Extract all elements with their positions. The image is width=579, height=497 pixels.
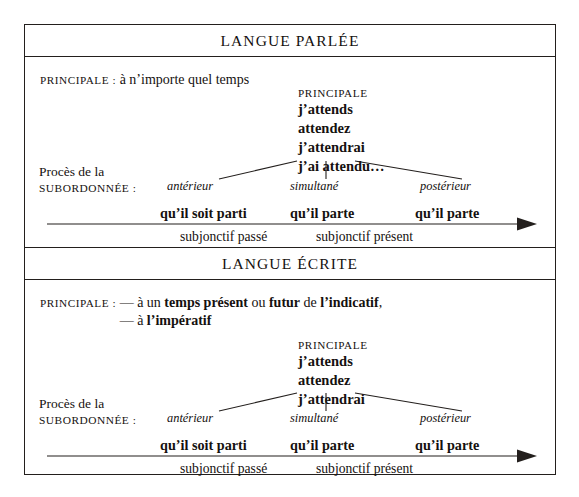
aspect-anterieur: antérieur [167,179,213,194]
form-subjonctif-passe: qu’il soit parti [160,205,247,222]
grammar-figure: LANGUE PARLÉE PRINCIPALE : à n’importe q… [24,24,556,475]
main-clause-verb: attendez [298,371,368,390]
panel-langue-parlee: LANGUE PARLÉE PRINCIPALE : à n’importe q… [25,25,555,247]
aspect-simultane: simultané [290,411,338,426]
principale-label: PRINCIPALE : [40,74,116,86]
form-subjonctif-present-2: qu’il parte [415,205,479,222]
main-clause-heading: PRINCIPALE [298,86,385,100]
panel-body-langue-parlee: PRINCIPALE : à n’importe quel temps PRIN… [25,57,555,247]
main-clause-verb: j’attends [298,352,368,371]
aspect-anterieur: antérieur [167,411,213,426]
main-clause-heading: PRINCIPALE [298,338,368,352]
panel-langue-ecrite: LANGUE ÉCRITE PRINCIPALE : — à un temps … [25,247,555,473]
principale-rule-line: à n’importe quel temps [120,71,249,89]
principale-rule-line: — à un temps présent ou futur de l’indic… [120,294,383,312]
principale-label: PRINCIPALE : [40,297,116,309]
main-clause-stack-spoken: PRINCIPALE j’attends attendez j’attendra… [298,86,385,175]
panel-body-langue-ecrite: PRINCIPALE : — à un temps présent ou fut… [25,280,555,473]
main-clause-verb: j’attendrai [298,390,368,409]
tense-band-present: subjonctif présent [316,461,413,477]
form-subjonctif-passe: qu’il soit parti [160,437,247,454]
tense-band-passe: subjonctif passé [180,229,267,245]
subordinate-label-line1: Procès de la [39,395,136,413]
form-subjonctif-present-1: qu’il parte [290,437,354,454]
form-subjonctif-present-1: qu’il parte [290,205,354,222]
principale-rule-written: PRINCIPALE : — à un temps présent ou fut… [40,294,382,330]
tense-band-passe: subjonctif passé [180,461,267,477]
subordinate-label-line2: SUBORDONNÉE : [39,181,136,196]
subordinate-label-line2: SUBORDONNÉE : [39,413,136,428]
panel-title: LANGUE ÉCRITE [222,255,358,273]
main-clause-stack-written: PRINCIPALE j’attends attendez j’attendra… [298,338,368,409]
panel-header-langue-parlee: LANGUE PARLÉE [25,25,555,57]
aspect-simultane: simultané [290,179,338,194]
subordinate-label-spoken: Procès de la SUBORDONNÉE : [39,163,136,195]
subordinate-label-written: Procès de la SUBORDONNÉE : [39,395,136,427]
main-clause-verb: attendez [298,119,385,138]
main-clause-verb: j’attends [298,100,385,119]
tense-band-present: subjonctif présent [316,229,413,245]
main-clause-verb: j’attendrai [298,138,385,157]
panel-title: LANGUE PARLÉE [220,32,359,50]
principale-rule-line: — à l’impératif [120,312,383,330]
principale-rule-spoken: PRINCIPALE : à n’importe quel temps [40,71,249,89]
aspect-posterieur: postérieur [420,179,471,194]
aspect-posterieur: postérieur [420,411,471,426]
main-clause-verb: j’ai attendu… [298,157,385,176]
panel-header-langue-ecrite: LANGUE ÉCRITE [25,248,555,280]
subordinate-label-line1: Procès de la [39,163,136,181]
form-subjonctif-present-2: qu’il parte [415,437,479,454]
